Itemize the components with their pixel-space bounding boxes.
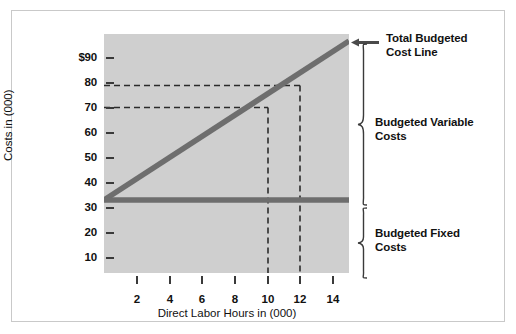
x-tick-4 [169, 276, 171, 284]
y-tick-60 [106, 132, 114, 134]
y-tick-50 [106, 157, 114, 159]
y-tick-70 [106, 107, 114, 109]
x-tick-12 [299, 276, 301, 284]
annotation-variable-line-2: Costs [375, 130, 474, 144]
y-tick-30 [106, 207, 114, 209]
x-axis-label-2: 2 [122, 294, 152, 306]
x-tick-2 [136, 276, 138, 284]
total-budgeted-cost-line [104, 41, 349, 200]
annotation-total-line-1: Total Budgeted [386, 32, 467, 46]
annotation-budgeted-fixed-costs: Budgeted Fixed Costs [375, 227, 460, 254]
y-axis-label-20: 20 [22, 227, 97, 239]
y-axis-label-70: 70 [22, 102, 97, 114]
y-axis-label-50: 50 [22, 152, 97, 164]
x-tick-10 [267, 276, 269, 284]
y-axis-label-60: 60 [22, 127, 97, 139]
y-tick-40 [106, 182, 114, 184]
annotation-fixed-line-2: Costs [375, 241, 460, 255]
y-axis-label-30: 30 [22, 202, 97, 214]
annotation-budgeted-variable-costs: Budgeted Variable Costs [375, 116, 474, 143]
x-tick-14 [332, 276, 334, 284]
x-axis-label-8: 8 [220, 294, 250, 306]
x-axis-label-6: 6 [187, 294, 217, 306]
y-axis-title: Costs in (000) [2, 89, 14, 161]
y-tick-20 [106, 232, 114, 234]
variable-costs-bracket [357, 43, 369, 206]
chart-lines-layer [104, 34, 349, 273]
y-axis-label-40: 40 [22, 177, 97, 189]
x-axis-label-14: 14 [318, 294, 348, 306]
x-axis-label-4: 4 [155, 294, 185, 306]
y-axis-label-80: 80 [22, 77, 97, 89]
y-axis-label-10: 10 [22, 252, 97, 264]
annotation-fixed-line-1: Budgeted Fixed [375, 227, 460, 241]
y-tick-80 [106, 82, 114, 84]
annotation-total-line-2: Cost Line [386, 46, 467, 60]
fixed-costs-bracket [357, 207, 369, 279]
x-tick-6 [201, 276, 203, 284]
plot-area [104, 34, 349, 273]
annotation-total-budgeted-cost-line: Total Budgeted Cost Line [386, 32, 467, 59]
y-axis-label-90: $90 [22, 52, 97, 64]
x-axis-label-12: 12 [285, 294, 315, 306]
x-tick-8 [234, 276, 236, 284]
y-tick-90 [106, 57, 114, 59]
x-axis-label-10: 10 [253, 294, 283, 306]
annotation-variable-line-1: Budgeted Variable [375, 116, 474, 130]
x-axis-title: Direct Labor Hours in (000) [82, 307, 372, 319]
chart-figure: Costs in (000) $90 80 70 60 50 40 30 20 … [11, 10, 505, 322]
y-tick-10 [106, 257, 114, 259]
